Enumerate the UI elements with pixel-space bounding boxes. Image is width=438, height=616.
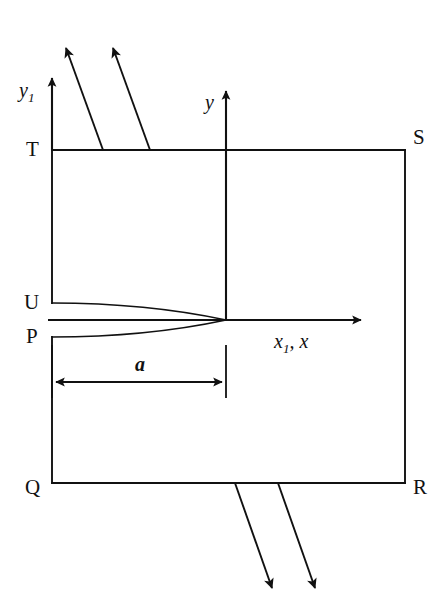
diagram-canvas [0, 0, 438, 616]
curve-lower-from-P [52, 320, 226, 337]
figure-root: T S U P Q R y1 y x1, x a [0, 0, 438, 616]
axis-label-x: x1, x [274, 331, 308, 355]
flux-arrow-top-1 [66, 48, 103, 150]
vertex-label-U: U [24, 292, 39, 313]
axis-label-y1: y1 [19, 80, 34, 104]
domain-rectangle [52, 150, 405, 483]
flux-arrow-bottom-2 [278, 483, 315, 588]
vertex-label-R: R [413, 477, 427, 498]
axis-group [48, 78, 361, 320]
dimension-label-a: a [135, 354, 145, 374]
vertex-label-Q: Q [25, 477, 40, 498]
curve-upper-from-U [52, 303, 226, 320]
flux-arrows-top [66, 48, 150, 150]
vertex-label-S: S [413, 127, 425, 148]
flux-arrow-top-2 [113, 48, 150, 150]
flux-arrows-bottom [235, 483, 315, 588]
flux-arrow-bottom-1 [235, 483, 272, 588]
vertex-label-T: T [26, 139, 39, 160]
axis-label-y: y [205, 92, 214, 112]
vertex-label-P: P [26, 326, 38, 347]
